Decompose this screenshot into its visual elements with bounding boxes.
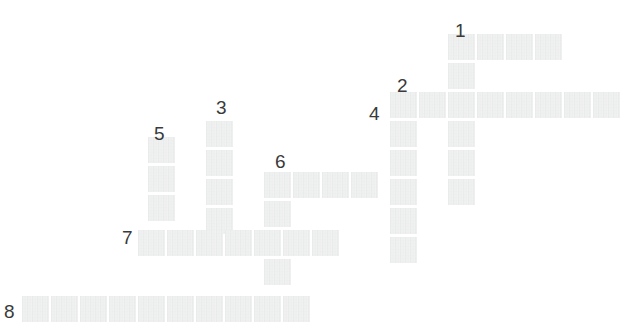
clue-number-4: 4 [369, 104, 380, 123]
crossword-cell[interactable] [167, 230, 194, 256]
clue-number-2: 2 [397, 76, 408, 95]
crossword-cell[interactable] [196, 296, 223, 322]
crossword-cell[interactable] [312, 230, 339, 256]
crossword-cell[interactable] [109, 296, 136, 322]
clue-number-6: 6 [275, 152, 286, 171]
crossword-cell[interactable] [477, 92, 504, 118]
crossword-cell[interactable] [390, 208, 417, 234]
clue-number-7: 7 [122, 228, 133, 247]
crossword-cell[interactable] [448, 121, 475, 147]
crossword-cell[interactable] [351, 172, 378, 198]
crossword-cell[interactable] [264, 259, 291, 285]
crossword-cell[interactable] [322, 172, 349, 198]
crossword-cell[interactable] [80, 296, 107, 322]
crossword-cell[interactable] [419, 92, 446, 118]
clue-number-5: 5 [154, 124, 165, 143]
crossword-cell[interactable] [293, 172, 320, 198]
crossword-cell[interactable] [138, 230, 165, 256]
crossword-cell[interactable] [535, 34, 562, 60]
crossword-cell[interactable] [448, 92, 475, 118]
crossword-cell[interactable] [390, 179, 417, 205]
crossword-cell[interactable] [254, 296, 281, 322]
crossword-cell[interactable] [390, 237, 417, 263]
clue-number-1: 1 [455, 21, 466, 40]
crossword-cell[interactable] [535, 92, 562, 118]
crossword-cell[interactable] [506, 92, 533, 118]
crossword-cell[interactable] [283, 230, 310, 256]
crossword-cell[interactable] [206, 150, 233, 176]
crossword-cell[interactable] [51, 296, 78, 322]
crossword-cell[interactable] [148, 166, 175, 192]
crossword-cell[interactable] [390, 121, 417, 147]
crossword-cell[interactable] [564, 92, 591, 118]
clue-number-3: 3 [216, 98, 227, 117]
crossword-cell[interactable] [138, 296, 165, 322]
crossword-cell[interactable] [225, 230, 252, 256]
crossword-cell[interactable] [477, 34, 504, 60]
crossword-cell[interactable] [448, 150, 475, 176]
crossword-cell[interactable] [593, 92, 620, 118]
crossword-cell[interactable] [283, 296, 310, 322]
crossword-cell[interactable] [148, 195, 175, 221]
crossword-grid-canvas: 12345678 [0, 0, 638, 331]
crossword-cell[interactable] [254, 230, 281, 256]
crossword-cell[interactable] [196, 230, 223, 256]
crossword-cell[interactable] [264, 201, 291, 227]
crossword-cell[interactable] [206, 179, 233, 205]
clue-number-8: 8 [4, 302, 15, 321]
crossword-cell[interactable] [225, 296, 252, 322]
crossword-cell[interactable] [264, 172, 291, 198]
crossword-cell[interactable] [22, 296, 49, 322]
crossword-cell[interactable] [206, 121, 233, 147]
crossword-cell[interactable] [448, 179, 475, 205]
crossword-cell[interactable] [448, 63, 475, 89]
crossword-cell[interactable] [390, 150, 417, 176]
crossword-cell[interactable] [506, 34, 533, 60]
crossword-cell[interactable] [167, 296, 194, 322]
